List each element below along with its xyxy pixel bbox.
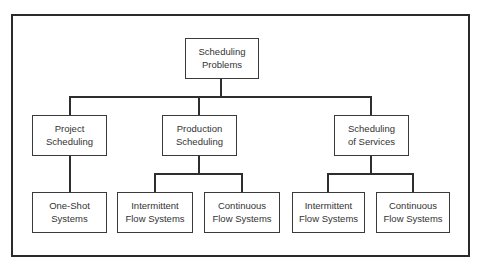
connector-project-to-oneshot bbox=[69, 155, 71, 192]
connector-serv-intermittent-drop bbox=[327, 173, 329, 192]
node-label-line2: Flow Systems bbox=[299, 213, 358, 224]
node-label-line1: Intermittent bbox=[131, 200, 179, 211]
connector-root-stem bbox=[220, 79, 222, 97]
connector-level2-bus bbox=[69, 96, 372, 98]
connector-production-stem bbox=[198, 155, 200, 174]
node-label-line1: Project bbox=[55, 123, 85, 134]
connector-services-drop bbox=[370, 96, 372, 115]
node-scheduling-problems: SchedulingProblems bbox=[185, 38, 259, 79]
node-scheduling-of-services: Schedulingof Services bbox=[334, 115, 409, 156]
node-label-line2: Scheduling bbox=[176, 136, 223, 147]
connector-production-drop bbox=[198, 96, 200, 115]
connector-services-stem bbox=[370, 155, 372, 174]
node-one-shot-systems: One-ShotSystems bbox=[32, 192, 107, 233]
node-services-continuous-flow: ContinuousFlow Systems bbox=[376, 192, 450, 233]
node-production-intermittent-flow: IntermittentFlow Systems bbox=[117, 192, 193, 233]
connector-prod-continuous-drop bbox=[241, 173, 243, 192]
node-services-intermittent-flow: IntermittentFlow Systems bbox=[292, 192, 365, 233]
node-label-line2: of Services bbox=[348, 136, 395, 147]
node-label-line1: Intermittent bbox=[305, 200, 353, 211]
node-label-line1: Continuous bbox=[218, 200, 266, 211]
node-label-line2: Problems bbox=[202, 59, 242, 70]
connector-serv-continuous-drop bbox=[412, 173, 414, 192]
node-label-line1: One-Shot bbox=[49, 200, 90, 211]
node-project-scheduling: ProjectScheduling bbox=[32, 115, 107, 156]
connector-services-bus bbox=[327, 173, 414, 175]
node-label-line1: Production bbox=[177, 123, 222, 134]
connector-prod-intermittent-drop bbox=[154, 173, 156, 192]
node-label-line2: Flow Systems bbox=[125, 213, 184, 224]
node-label-line2: Systems bbox=[51, 213, 87, 224]
node-label-line1: Scheduling bbox=[198, 46, 245, 57]
node-label-line1: Continuous bbox=[389, 200, 437, 211]
node-production-scheduling: ProductionScheduling bbox=[162, 115, 237, 156]
node-label-line2: Scheduling bbox=[46, 136, 93, 147]
connector-project-drop bbox=[69, 96, 71, 115]
node-label-line1: Scheduling bbox=[348, 123, 395, 134]
node-label-line2: Flow Systems bbox=[383, 213, 442, 224]
node-label-line2: Flow Systems bbox=[212, 213, 271, 224]
connector-production-bus bbox=[154, 173, 243, 175]
node-production-continuous-flow: ContinuousFlow Systems bbox=[204, 192, 280, 233]
